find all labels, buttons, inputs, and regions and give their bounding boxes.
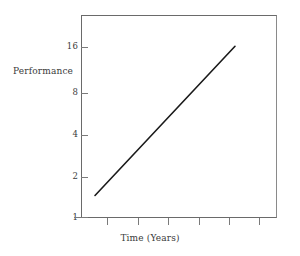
y-tick-label-1: 1 [38, 213, 78, 222]
y-tick-label-4: 4 [38, 130, 78, 139]
chart-figure: 16 8 4 2 1 Performance Time (Years) [0, 0, 300, 256]
x-axis-title: Time (Years) [0, 233, 300, 243]
y-axis-title: Performance [13, 66, 73, 76]
x-tick-marks [108, 218, 260, 225]
plot-area [81, 15, 277, 218]
y-tick-label-16: 16 [38, 42, 78, 51]
y-tick-label-8: 8 [38, 88, 78, 97]
y-tick-label-2: 2 [38, 172, 78, 181]
